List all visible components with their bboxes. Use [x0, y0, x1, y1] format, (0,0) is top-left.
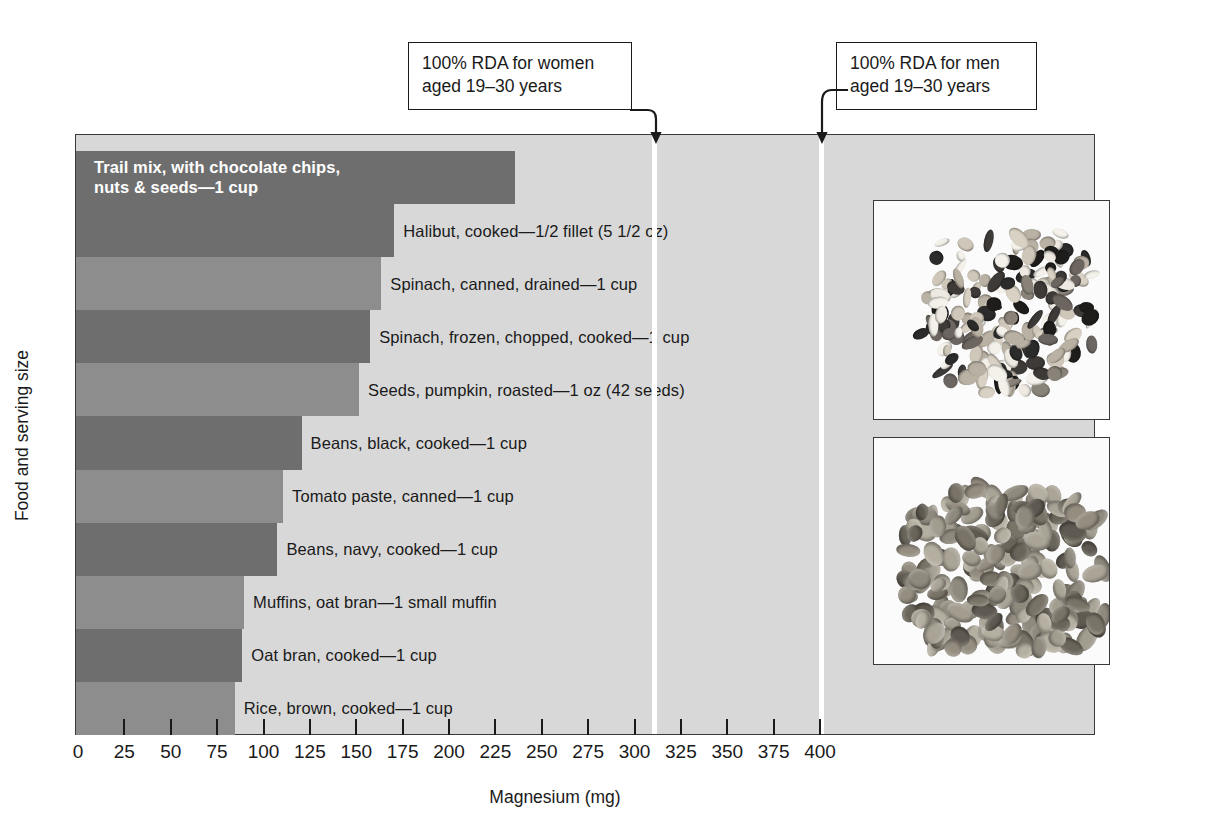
x-axis-tick-labels: 0255075100125150175200225250275300325350…: [0, 741, 1213, 767]
bar-label: Beans, black, cooked—1 cup: [311, 433, 527, 452]
x-tick-label: 0: [73, 741, 84, 763]
x-tick-label: 75: [207, 741, 228, 763]
reference-line-men: [819, 135, 824, 734]
x-tick: [541, 719, 543, 735]
bar-label: Spinach, frozen, chopped, cooked—1 cup: [379, 327, 689, 346]
x-axis-title: Magnesium (mg): [0, 787, 1110, 808]
x-tick: [402, 719, 404, 735]
x-tick-label: 300: [619, 741, 651, 763]
x-tick: [355, 719, 357, 735]
bar-label: Rice, brown, cooked—1 cup: [244, 699, 453, 718]
pumpkin-seed: [1030, 636, 1047, 659]
bar-label: Seeds, pumpkin, roasted—1 oz (42 seeds): [368, 380, 685, 399]
trail-mix-piece: [927, 250, 943, 267]
bar: [76, 576, 244, 629]
x-tick-label: 200: [433, 741, 465, 763]
x-tick-label: 375: [758, 741, 790, 763]
bar-label: Halibut, cooked—1/2 fillet (5 1/2 oz): [403, 221, 668, 240]
x-tick-label: 50: [160, 741, 181, 763]
y-axis-title: Food and serving size: [12, 306, 33, 566]
pumpkin-seeds-photo: [873, 437, 1110, 665]
bar-label: Tomato paste, canned—1 cup: [292, 487, 514, 506]
x-tick: [309, 719, 311, 735]
x-axis-ticks: [75, 719, 1095, 736]
x-tick-label: 275: [572, 741, 604, 763]
x-tick-label: 400: [804, 741, 836, 763]
bar: [76, 204, 394, 257]
x-tick-label: 350: [711, 741, 743, 763]
x-tick: [680, 719, 682, 735]
x-tick: [726, 719, 728, 735]
trail-mix-piece: [981, 228, 995, 252]
pumpkin-seed: [949, 576, 968, 603]
callout-men-arrow: [808, 84, 852, 148]
bar-row: Trail mix, with chocolate chips, nuts & …: [76, 151, 1094, 204]
bar: [76, 629, 242, 682]
x-tick: [494, 719, 496, 735]
x-tick-label: 225: [480, 741, 512, 763]
x-tick: [263, 719, 265, 735]
x-tick-label: 150: [340, 741, 372, 763]
x-tick: [123, 719, 125, 735]
x-tick: [216, 719, 218, 735]
bar-label: Oat bran, cooked—1 cup: [251, 646, 437, 665]
trail-mix-piece: [1083, 269, 1100, 280]
x-tick: [819, 719, 821, 735]
x-tick-label: 125: [294, 741, 326, 763]
reference-line-women: [652, 135, 657, 734]
x-tick-label: 25: [114, 741, 135, 763]
x-tick: [448, 719, 450, 735]
bar: [76, 257, 381, 310]
x-tick: [773, 719, 775, 735]
trail-mix-piece: [1037, 333, 1058, 346]
bar-label: Trail mix, with chocolate chips, nuts & …: [94, 157, 340, 199]
x-tick: [170, 719, 172, 735]
bar: [76, 523, 277, 576]
bar: [76, 310, 370, 363]
trail-mix-piece: [978, 386, 995, 399]
x-tick-label: 175: [387, 741, 419, 763]
callout-men-rda: 100% RDA for men aged 19–30 years: [836, 42, 1037, 110]
bar: [76, 363, 359, 416]
callout-women-arrow: [626, 106, 668, 148]
trail-mix-piece: [934, 236, 951, 248]
bar-label: Beans, navy, cooked—1 cup: [286, 540, 497, 559]
bar: [76, 416, 302, 469]
x-tick: [634, 719, 636, 735]
bar-label: Muffins, oat bran—1 small muffin: [253, 593, 497, 612]
x-tick-label: 325: [665, 741, 697, 763]
trail-mix-photo: [873, 200, 1110, 420]
bar: [76, 470, 283, 523]
x-tick: [587, 719, 589, 735]
bar-label: Spinach, canned, drained—1 cup: [390, 274, 637, 293]
trail-mix-piece: [1086, 335, 1098, 353]
x-tick-label: 250: [526, 741, 558, 763]
callout-women-rda: 100% RDA for women aged 19–30 years: [408, 42, 632, 110]
x-tick-label: 100: [248, 741, 280, 763]
pumpkin-seed: [895, 543, 921, 559]
